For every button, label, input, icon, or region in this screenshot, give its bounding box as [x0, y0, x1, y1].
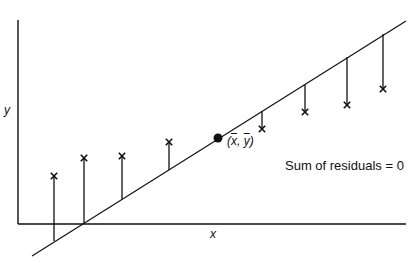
residual: [380, 34, 386, 92]
residual: [166, 139, 172, 170]
residual: [81, 155, 87, 223]
mean-y-label: y: [244, 134, 250, 148]
x-axis-label: x: [210, 227, 216, 241]
residual: [119, 153, 125, 199]
regression-diagram: [0, 0, 415, 263]
mean-point-label: (x, y): [227, 134, 254, 148]
residual: [51, 173, 57, 241]
mean-point-marker: [214, 134, 223, 143]
axes: [18, 20, 406, 224]
sum-of-residuals-note: Sum of residuals = 0: [285, 158, 404, 173]
residual: [259, 111, 265, 132]
residual: [302, 85, 308, 115]
mean-label-separator: ,: [237, 134, 244, 148]
residual: [344, 57, 350, 108]
y-axis-label: y: [4, 103, 10, 117]
